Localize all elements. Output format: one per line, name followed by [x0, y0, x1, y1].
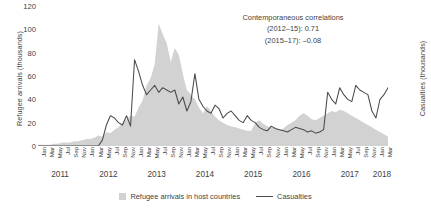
x-tick-label: Nov [274, 147, 281, 158]
x-tick-label: Jan [40, 147, 47, 157]
line-swatch-icon [256, 196, 273, 197]
x-tick-label: Nov [129, 147, 136, 158]
y-tick-label: 40 [28, 95, 36, 104]
x-tick-label: Jan [378, 147, 385, 157]
year-label: 2015 [244, 170, 262, 179]
x-tick-label: May [201, 147, 208, 158]
chart-legend: Refugee arrivals in host countries Casua… [0, 192, 431, 201]
x-axis-year-labels: 20112012201320142015201620172018 [38, 170, 388, 184]
x-tick-label: May [105, 147, 112, 158]
x-tick-label: May [298, 147, 305, 158]
chart-figure: Refugee arrivals (thousands) Casualties … [0, 0, 431, 215]
x-tick-label: Jul [64, 147, 71, 155]
x-tick-label: Jul [354, 147, 361, 155]
x-tick-label: Mar [48, 147, 55, 157]
x-tick-label: Jan [233, 147, 240, 157]
x-tick-label: Jul [161, 147, 168, 155]
year-label: 2016 [292, 170, 310, 179]
x-tick-label: Jan [137, 147, 144, 157]
x-tick-label: Jan [88, 147, 95, 157]
x-tick-label: Jul [209, 147, 216, 155]
x-tick-label: May [56, 147, 63, 158]
year-label: 2018 [373, 170, 391, 179]
year-label: 2013 [148, 170, 166, 179]
annotation-line-2: (2015–17): –0.08 [213, 35, 373, 46]
x-tick-label: Jul [257, 147, 264, 155]
legend-label-casualties: Casualties [277, 192, 312, 201]
legend-item-refugee-arrivals: Refugee arrivals in host countries [119, 192, 240, 201]
x-tick-label: Mar [97, 147, 104, 157]
x-tick-label: May [153, 147, 160, 158]
x-tick-label: Sep [362, 147, 369, 158]
year-label: 2012 [99, 170, 117, 179]
x-tick-label: Mar [386, 147, 393, 157]
x-tick-label: Mar [241, 147, 248, 157]
x-tick-label: Sep [217, 147, 224, 158]
x-tick-label: May [249, 147, 256, 158]
x-tick-label: Mar [290, 147, 297, 157]
y-tick-label: 120 [23, 2, 36, 11]
x-tick-label: Sep [169, 147, 176, 158]
y-axis-tick-labels: 020406080100120 [0, 0, 40, 215]
annotation-line-0: Contemporaneous correlations [213, 12, 373, 23]
y-axis-right-title: Casualties (thousands) [418, 14, 427, 144]
x-tick-label: Jan [185, 147, 192, 157]
y-tick-label: 80 [28, 48, 36, 57]
y-tick-label: 100 [23, 25, 36, 34]
x-tick-label: Nov [322, 147, 329, 158]
area-swatch-icon [119, 193, 126, 200]
annotation-line-1: (2012–15): 0.71 [213, 23, 373, 34]
x-tick-label: Mar [145, 147, 152, 157]
legend-label-refugee-arrivals: Refugee arrivals in host countries [130, 192, 240, 201]
x-tick-label: Jan [282, 147, 289, 157]
year-label: 2011 [51, 170, 69, 179]
x-tick-label: Jul [113, 147, 120, 155]
x-tick-label: May [346, 147, 353, 158]
x-tick-label: Nov [225, 147, 232, 158]
x-tick-label: Sep [314, 147, 321, 158]
x-tick-label: Jan [330, 147, 337, 157]
x-tick-label: Jul [306, 147, 313, 155]
x-tick-label: Nov [370, 147, 377, 158]
x-tick-label: Sep [265, 147, 272, 158]
legend-item-casualties: Casualties [256, 192, 312, 201]
x-tick-label: Mar [338, 147, 345, 157]
y-tick-label: 0 [32, 142, 36, 151]
correlation-annotation: Contemporaneous correlations(2012–15): 0… [213, 12, 373, 46]
year-label: 2014 [196, 170, 214, 179]
x-tick-label: Nov [177, 147, 184, 158]
y-tick-label: 20 [28, 118, 36, 127]
y-tick-label: 60 [28, 72, 36, 81]
x-tick-label: Nov [80, 147, 87, 158]
x-tick-label: Sep [121, 147, 128, 158]
x-tick-label: Mar [193, 147, 200, 157]
x-tick-label: Sep [72, 147, 79, 158]
x-axis-month-labels: JanMarMayJulSepNovJanMarMayJulSepNovJanM… [38, 147, 388, 169]
year-label: 2017 [341, 170, 359, 179]
